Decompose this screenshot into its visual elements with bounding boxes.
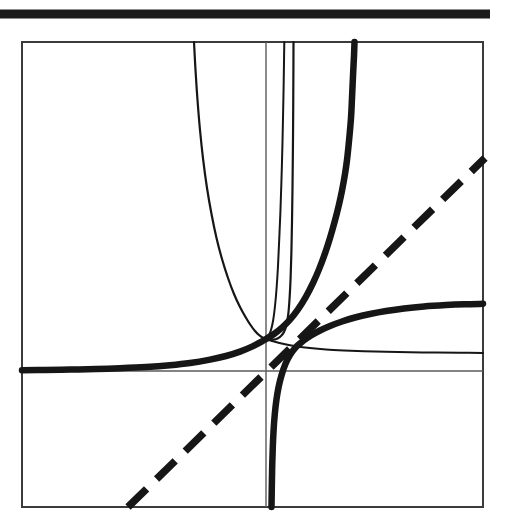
figure-background (0, 0, 512, 530)
function-plot-svg (0, 0, 512, 530)
figure-root (0, 0, 512, 530)
